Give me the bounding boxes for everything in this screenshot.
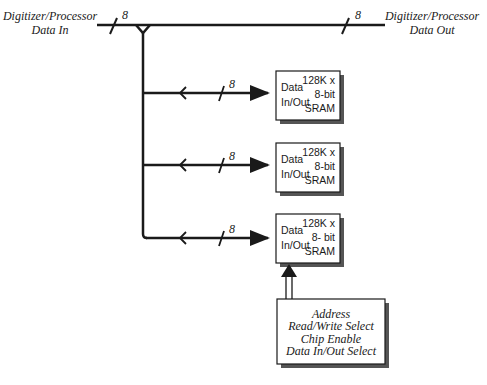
input-label-line1: Digitizer/Processor [2,9,98,23]
sram-spec: 128K x [302,217,335,229]
sram-spec: SRAM [305,102,335,114]
output-label: Digitizer/Processor Data Out [384,9,480,37]
sram-block-2: Data In/Out 128K x 8-bit SRAM [276,143,344,196]
sram-bus-diagram: Digitizer/Processor Data In Digitizer/Pr… [0,0,487,385]
control-signals-box: Address Read/Write Select Chip Enable Da… [277,299,389,368]
sram-port-label: Data [281,81,303,93]
output-label-line1: Digitizer/Processor [384,9,480,23]
branch-sram-1: 8 [143,77,268,101]
branch-bus-width: 8 [229,77,235,91]
input-label-line2: Data In [31,23,69,37]
branch-bus-width: 8 [229,222,235,236]
sram-port-label: Data [281,224,303,236]
control-signal: Read/Write Select [287,319,374,333]
sram-block-3: Data In/Out 128K x 8- bit SRAM [276,214,344,267]
sram-port-label: Data [281,153,303,165]
sram-block-1: Data In/Out 128K x 8-bit SRAM [276,71,344,124]
sram-spec: 8-bit [315,88,336,100]
input-label: Digitizer/Processor Data In [2,9,98,37]
branch-sram-3: 8 [146,222,268,246]
control-signal: Data In/Out Select [285,344,377,358]
sram-spec: 128K x [302,146,335,158]
sram-spec: SRAM [305,174,335,186]
branch-sram-2: 8 [143,149,268,173]
output-bus-width: 8 [355,8,361,22]
output-label-line2: Data Out [409,23,456,37]
sram-spec: 8- bit [312,231,335,243]
sram-spec: SRAM [305,245,335,257]
vertical-trunk [143,33,147,238]
control-arrow [281,264,297,299]
input-bus-width: 8 [122,8,128,22]
branch-bus-width: 8 [229,149,235,163]
sram-spec: 128K x [302,74,335,86]
sram-spec: 8-bit [315,160,336,172]
